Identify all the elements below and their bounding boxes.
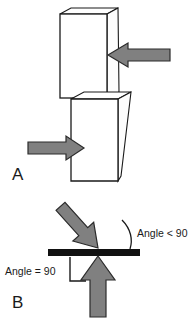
angle-arc-marker [122, 220, 131, 249]
upper-block-front-face [60, 14, 107, 98]
panel-b-letter: B [12, 293, 23, 312]
angle-less-than-90-label: Angle < 90 [137, 227, 188, 239]
physics-figure: A Angle < 90 Angle = 90 B [0, 0, 193, 323]
oblique-arrow-shape [50, 197, 108, 257]
panel-a-group: A [12, 8, 170, 184]
lower-block [71, 92, 131, 181]
lower-block-front-face [71, 99, 118, 181]
horizontal-bar [48, 249, 140, 256]
upper-block [60, 8, 119, 98]
perpendicular-up-arrow [81, 256, 115, 317]
angle-equals-90-label: Angle = 90 [5, 265, 56, 277]
panel-b-group: Angle < 90 Angle = 90 B [5, 197, 188, 317]
oblique-arrow [50, 197, 108, 257]
figure-canvas: A Angle < 90 Angle = 90 B [0, 0, 193, 323]
lower-block-right-face [118, 92, 131, 181]
panel-a-letter: A [12, 165, 24, 184]
